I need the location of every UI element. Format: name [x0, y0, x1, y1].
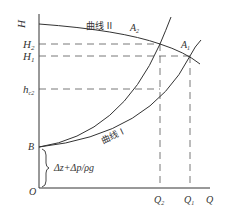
point-a2-label: A2 [129, 22, 139, 34]
y-axis-label: H [15, 19, 27, 29]
hc2-label: hc2 [23, 83, 34, 96]
q1-label: Q1 [184, 194, 194, 206]
point-b-label: B [28, 141, 34, 152]
static-head-label: Δz+Δp/ρg [53, 162, 94, 173]
system-curve-2 [39, 17, 171, 147]
pump-system-curve-diagram: H H2 H1 hc2 B O Q2 Q1 Q A2 A1 曲线 II 曲线 I… [0, 0, 227, 219]
origin-label: O [29, 186, 36, 197]
point-a1-label: A1 [180, 39, 190, 51]
curve-2-label: 曲线 II [86, 20, 112, 31]
brace [42, 149, 49, 187]
x-axis-label: Q [206, 194, 214, 205]
h1-label: H1 [22, 50, 34, 64]
q2-label: Q2 [154, 194, 164, 206]
